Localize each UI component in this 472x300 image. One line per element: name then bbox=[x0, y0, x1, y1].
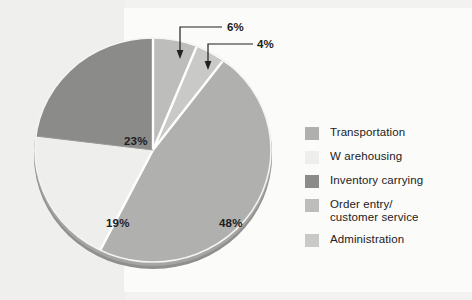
legend-swatch-transportation bbox=[305, 127, 319, 140]
pie-svg bbox=[31, 36, 277, 272]
legend-label-order-entry-line1: Order entry/ bbox=[330, 198, 393, 210]
legend-item-inventory-carrying[interactable]: Inventory carrying bbox=[305, 174, 467, 189]
legend-label-inventory-carrying: Inventory carrying bbox=[330, 174, 423, 187]
callout-label-6: 6% bbox=[227, 21, 244, 33]
pie-value-label-19: 19% bbox=[106, 217, 130, 229]
pie-value-label-23: 23% bbox=[124, 135, 148, 147]
pie-slices bbox=[33, 38, 277, 272]
pie-chart: 23% 19% 48% bbox=[31, 36, 277, 272]
legend-item-order-entry[interactable]: Order entry/customer service bbox=[305, 198, 467, 224]
legend-label-transportation: Transportation bbox=[330, 126, 405, 139]
legend-label-warehousing: W arehousing bbox=[330, 150, 402, 163]
legend-item-administration[interactable]: Administration bbox=[305, 233, 467, 248]
legend-swatch-administration bbox=[305, 234, 319, 247]
legend-item-transportation[interactable]: Transportation bbox=[305, 126, 467, 141]
legend: Transportation W arehousing Inventory ca… bbox=[305, 126, 467, 248]
chart-figure: 23% 19% 48% 6% 4% Transportation W areho… bbox=[0, 0, 472, 300]
legend-swatch-warehousing bbox=[305, 151, 319, 164]
pie-slice-inventory-carrying bbox=[35, 38, 153, 150]
pie-value-label-48: 48% bbox=[219, 217, 243, 229]
legend-label-order-entry-line2: customer service bbox=[330, 211, 419, 224]
legend-label-administration: Administration bbox=[330, 233, 404, 246]
legend-swatch-order-entry bbox=[305, 199, 319, 212]
legend-item-warehousing[interactable]: W arehousing bbox=[305, 150, 467, 165]
callout-label-4: 4% bbox=[257, 38, 274, 50]
legend-label-order-entry: Order entry/customer service bbox=[330, 198, 419, 224]
legend-swatch-inventory-carrying bbox=[305, 175, 319, 188]
